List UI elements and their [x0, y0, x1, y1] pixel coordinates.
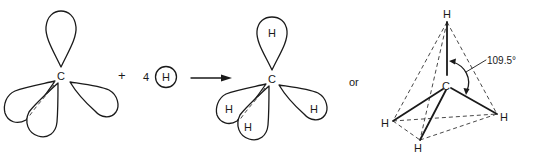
four-hydrogens: 4 H: [143, 67, 177, 88]
hydrogen-label-left: H: [381, 117, 389, 129]
methane-hybridization-diagram: C + 4 H C H H H H or: [0, 0, 544, 159]
bond-angle-label: 109.5°: [487, 55, 516, 66]
orbital-lobe-top: [46, 11, 76, 67]
hydrogen-label-right: H: [310, 103, 318, 115]
arrowhead-icon: [464, 88, 470, 95]
hydrogen-label-top: H: [268, 27, 276, 39]
hydrogen-label-top: H: [443, 8, 451, 20]
reaction-arrow: [191, 75, 232, 82]
hydrogen-label-left: H: [225, 103, 233, 115]
sp3-carbon-with-hydrogens: C H H H H: [216, 17, 327, 140]
hydrogen-label-right: H: [500, 111, 508, 123]
arrowhead-icon: [449, 59, 456, 65]
hydrogen-label-front: H: [244, 121, 252, 133]
orbital-lobe-right: [70, 82, 118, 117]
carbon-label: C: [57, 70, 65, 82]
hydrogen-label-bottom: H: [414, 142, 422, 154]
bond-angle-arc: [453, 62, 469, 91]
carbon-label: C: [268, 73, 276, 85]
orbital-lobe-top: [257, 17, 287, 70]
arrowhead-icon: [221, 75, 232, 82]
tetrahedral-methane: 109.5° C H H H H: [381, 8, 516, 154]
hydrogen-count: 4: [143, 71, 149, 83]
orbital-lobe-right: [279, 85, 327, 120]
hydrogen-label: H: [162, 71, 170, 83]
or-label: or: [349, 76, 359, 88]
plus-sign: +: [118, 68, 126, 83]
sp3-carbon-orbitals: C: [4, 11, 118, 137]
carbon-label: C: [442, 80, 450, 92]
